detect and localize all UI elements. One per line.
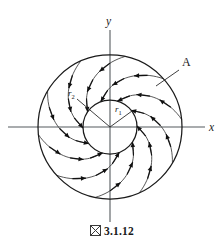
inner-radius-subscript: 1: [119, 109, 122, 116]
region-label-A: A: [182, 55, 191, 69]
field-arrow-head: [50, 114, 54, 119]
x-axis-label: x: [208, 121, 215, 133]
spiral-flow-line: [95, 143, 133, 198]
figure-container: y x A r1 r2 3.1.12: [0, 0, 224, 250]
outer-radius-line: [77, 99, 110, 127]
outer-radius-subscript: 2: [72, 93, 75, 100]
figure-box-glyph-icon: [90, 225, 101, 236]
field-arrow-head: [166, 134, 170, 139]
field-arrow-head: [81, 176, 86, 181]
field-arrow-head: [68, 107, 73, 112]
spiral-flow-line: [137, 127, 152, 193]
inner-radius-label: r1: [115, 104, 122, 116]
field-arrow-head: [148, 142, 153, 147]
figure-caption-number: 3.1.12: [104, 225, 134, 237]
outer-radius-label: r2: [68, 88, 75, 100]
vector-field-figure: y x A r1 r2: [0, 0, 224, 250]
y-axis-label: y: [105, 15, 112, 28]
figure-caption: 3.1.12: [0, 224, 224, 237]
field-arrow-head: [134, 73, 139, 78]
spiral-flow-line: [86, 57, 124, 112]
